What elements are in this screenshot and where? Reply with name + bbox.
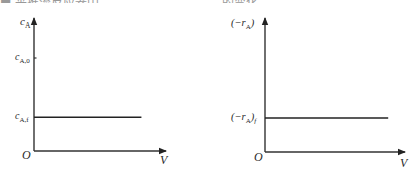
chart-rate-vs-volume: (−rA) (−rA)f O V [231, 17, 409, 170]
ytick-label-cA0: cA,0 [15, 51, 30, 65]
chart-concentration-vs-volume: cA cA,0 cA,f O V [15, 15, 169, 167]
y-axis-label: (−rA) [231, 17, 255, 31]
diagram-canvas: cA cA,0 cA,f O V (−rA) (−rA)f O V [0, 0, 417, 180]
origin-label: O [22, 148, 31, 162]
y-axis-label: cA [20, 15, 31, 30]
x-axis-label: V [160, 153, 169, 167]
ytick-label-cAf: cA,f [15, 110, 29, 124]
origin-label: O [254, 150, 263, 164]
ytick-label-rAf: (−rA)f [231, 111, 257, 125]
x-axis-label: V [400, 156, 409, 170]
